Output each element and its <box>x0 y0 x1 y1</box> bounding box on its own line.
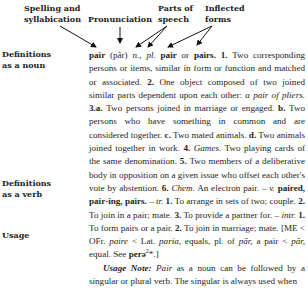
part-of-speech-verb: v. <box>269 183 275 193</box>
dictionary-entry: pair (pâr) n., pl. pair or pairs. 1. Two… <box>89 49 305 288</box>
part-of-speech-noun: n., <box>132 50 141 60</box>
usage-note: Usage Note: Pair as a noun can be follow… <box>89 262 305 288</box>
etymology-root-link[interactable]: perə <box>129 249 146 259</box>
label-usage: Usage <box>2 230 29 241</box>
arrow-spelling <box>60 26 96 47</box>
sense-text: Two persons joined in marriage or engage… <box>106 103 274 113</box>
transitive-label: tr. <box>156 196 163 206</box>
field-label: Chem. <box>171 183 195 193</box>
usage-example: a pair of pliers. <box>245 90 305 100</box>
pronunciation: (pâr) <box>110 50 128 60</box>
headword: pair <box>89 50 105 60</box>
plural-form: pair <box>161 50 177 60</box>
arrow-inflected-2 <box>197 26 212 45</box>
plural-label: pl. <box>146 50 155 60</box>
field-label: Games. <box>194 143 222 153</box>
plural-form: pairs. <box>194 50 216 60</box>
label-definitions-verb: Definitions as a verb <box>2 178 51 200</box>
label-definitions-noun: Definitions as a noun <box>2 49 51 71</box>
sense-text: To provide a partner for. <box>183 210 272 220</box>
usage-note-label: Usage Note: <box>103 263 151 273</box>
sense-text: To arrange in sets of two; couple. <box>175 196 296 206</box>
sense-text: To join in marriage; mate. <box>184 223 279 233</box>
sense-text: An electron pair. <box>197 183 259 193</box>
sense-text: Two mated animals. <box>173 130 246 140</box>
arrow-inflected-1 <box>168 26 212 47</box>
entry-definition: pair (pâr) n., pl. pair or pairs. 1. Two… <box>89 49 305 262</box>
sense-text: To join in a pair; mate. <box>89 210 172 220</box>
intransitive-label: intr. <box>281 210 295 220</box>
sense-text: To form pairs or a pair. <box>89 223 173 233</box>
